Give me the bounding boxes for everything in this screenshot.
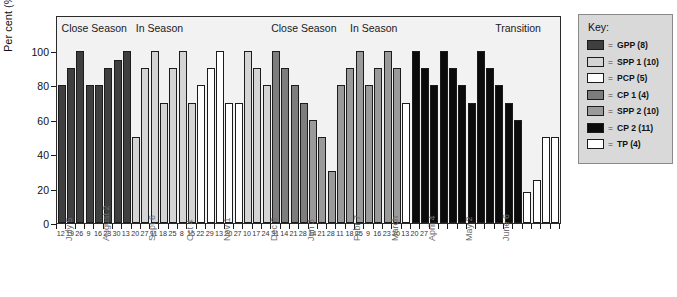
bar — [384, 51, 392, 223]
season-annotation-label: Transition — [495, 22, 541, 34]
bar — [272, 51, 280, 223]
bar-group — [57, 51, 560, 223]
x-axis-month-label: Febr 7 — [352, 215, 362, 241]
bar — [477, 51, 485, 223]
bar — [207, 68, 215, 223]
chart-page: 020406080100 Per cent (%) Close SeasonIn… — [0, 0, 677, 297]
bar — [412, 51, 420, 223]
plot-area: Close SeasonIn SeasonClose SeasonIn Seas… — [56, 16, 561, 224]
legend-swatch — [587, 40, 604, 50]
x-axis-date-label: 18 — [159, 229, 167, 238]
legend-item: =PCP (5) — [587, 72, 647, 84]
bar — [356, 51, 364, 223]
season-annotation: Close Season — [66, 20, 122, 36]
bar — [523, 192, 531, 223]
y-axis-tick-label: 60 — [37, 115, 49, 127]
y-axis-tick-label: 0 — [43, 218, 49, 230]
x-axis-tick — [512, 224, 513, 229]
x-axis-tick — [531, 224, 532, 229]
x-axis-tick — [494, 224, 495, 229]
x-axis-date-label: 20 — [411, 229, 419, 238]
bar — [533, 180, 541, 223]
x-axis-month-label: Jan 3 — [306, 219, 316, 241]
legend-item-label: CP 1 (4) — [617, 90, 649, 100]
bar — [179, 51, 187, 223]
legend-swatch — [587, 139, 604, 149]
bar — [76, 51, 84, 223]
season-annotation: In Season — [346, 20, 402, 36]
x-axis-date-label: 28 — [327, 229, 335, 238]
x-axis-date-label: 17 — [252, 229, 260, 238]
x-axis-tick — [559, 224, 560, 229]
legend-swatch — [587, 123, 604, 133]
legend-equals-sign: = — [608, 73, 613, 83]
bar — [458, 85, 466, 223]
legend-equals-sign: = — [608, 139, 613, 149]
x-axis-tick — [550, 224, 551, 229]
bar — [309, 120, 317, 223]
x-axis-month-label: July 5 — [64, 217, 74, 241]
x-axis-tick — [540, 224, 541, 229]
x-axis-tick — [177, 224, 178, 229]
legend-item-label: SPP 2 (10) — [617, 106, 659, 116]
x-axis-tick — [438, 224, 439, 229]
season-annotation: In Season — [132, 20, 188, 36]
season-annotation-label: Close Season — [271, 22, 336, 34]
bar — [300, 103, 308, 223]
legend: Key: =GPP (8)=SPP 1 (10)=PCP (5)=CP 1 (4… — [578, 14, 673, 164]
legend-swatch — [587, 90, 604, 100]
bar — [374, 68, 382, 223]
bar — [253, 68, 261, 223]
bar — [244, 51, 252, 223]
bar — [328, 171, 336, 223]
x-axis-month-label: June 6 — [501, 214, 511, 241]
bar — [551, 137, 559, 223]
bar — [291, 85, 299, 223]
legend-item-label: TP (4) — [617, 139, 641, 149]
bar — [505, 103, 513, 223]
y-axis-tick-label: 20 — [37, 184, 49, 196]
bar — [197, 85, 205, 223]
season-annotation-label: Close Season — [62, 22, 127, 34]
legend-equals-sign: = — [608, 90, 613, 100]
y-axis-tick-label: 100 — [31, 46, 49, 58]
y-axis-title: Per cent (%) — [2, 0, 14, 52]
bar — [365, 85, 373, 223]
legend-equals-sign: = — [608, 106, 613, 116]
bar — [337, 85, 345, 223]
x-axis-date-label: 21 — [317, 229, 325, 238]
bar — [95, 85, 103, 223]
x-axis-month-label: April 4 — [427, 215, 437, 241]
x-axis-tick — [363, 224, 364, 229]
bar — [468, 103, 476, 223]
x-axis-date-label: 10 — [243, 229, 251, 238]
x-axis-month-label: Dec 6 — [269, 217, 279, 241]
x-axis-month-label: Sept 6 — [147, 215, 157, 241]
x-axis-tick — [522, 224, 523, 229]
legend-swatch — [587, 73, 604, 83]
bar — [123, 51, 131, 223]
x-axis-date-label: 21 — [290, 229, 298, 238]
bar — [346, 68, 354, 223]
bar — [104, 68, 112, 223]
x-axis-month-label: August 2 — [101, 205, 111, 241]
legend-item: =CP 1 (4) — [587, 89, 649, 101]
bar — [393, 68, 401, 223]
x-axis-date-label: 29 — [206, 229, 214, 238]
x-axis-date-label: 26 — [75, 229, 83, 238]
bar — [216, 51, 224, 223]
legend-item-label: SPP 1 (10) — [617, 57, 659, 67]
bar — [430, 85, 438, 223]
x-axis-date-label: 11 — [336, 229, 343, 238]
bar — [318, 137, 326, 223]
bar — [263, 85, 271, 223]
x-axis-tick — [475, 224, 476, 229]
season-annotation: Transition — [495, 20, 542, 36]
y-axis-tick-label: 80 — [37, 80, 49, 92]
legend-item-label: CP 2 (11) — [617, 123, 653, 133]
legend-swatch — [587, 57, 604, 67]
legend-item-label: PCP (5) — [617, 73, 647, 83]
season-annotation-label: In Season — [136, 22, 183, 34]
legend-item: =TP (4) — [587, 138, 641, 150]
x-axis-date-label: 20 — [131, 229, 139, 238]
